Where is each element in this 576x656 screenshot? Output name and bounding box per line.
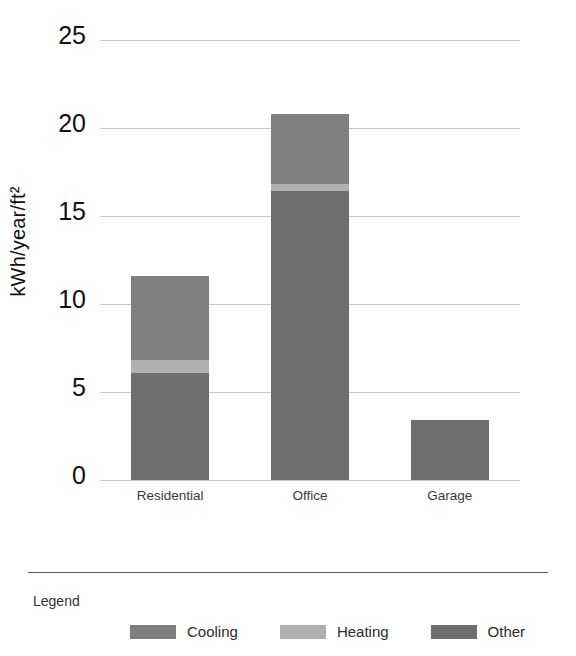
- y-axis-tick-label: 20: [0, 111, 86, 136]
- bar-segment-heating[interactable]: [271, 184, 349, 191]
- legend-item-cooling[interactable]: Cooling: [130, 623, 238, 640]
- legend-label: Heating: [337, 623, 389, 640]
- legend-divider: [28, 572, 548, 573]
- legend-swatch-other: [431, 625, 477, 639]
- chart-page: kWh/year/ft² 0510152025 ResidentialOffic…: [0, 0, 576, 656]
- legend-swatch-cooling: [130, 625, 176, 639]
- chart-canvas: kWh/year/ft² 0510152025 ResidentialOffic…: [0, 0, 576, 545]
- legend-label: Other: [488, 623, 526, 640]
- bar-stack: [271, 114, 349, 480]
- y-axis-tick-label: 15: [0, 199, 86, 224]
- legend-swatch-heating: [280, 625, 326, 639]
- y-axis-tick-label: 10: [0, 287, 86, 312]
- x-axis-tick-label: Garage: [370, 488, 530, 503]
- bar-residential[interactable]: [131, 276, 209, 480]
- gridline: [100, 480, 520, 481]
- plot-area: [100, 40, 520, 480]
- bar-segment-cooling[interactable]: [271, 114, 349, 184]
- x-axis-tick-label: Office: [230, 488, 390, 503]
- y-axis-tick-label: 5: [0, 375, 86, 400]
- bar-segment-cooling[interactable]: [131, 276, 209, 360]
- y-axis-tick-label: 0: [0, 463, 86, 488]
- legend-title: Legend: [33, 593, 80, 609]
- bar-segment-other[interactable]: [411, 420, 489, 480]
- bar-stack: [411, 420, 489, 480]
- bar-segment-heating[interactable]: [131, 360, 209, 372]
- legend-item-other[interactable]: Other: [431, 623, 526, 640]
- legend-item-heating[interactable]: Heating: [280, 623, 389, 640]
- bar-office[interactable]: [271, 114, 349, 480]
- bar-segment-other[interactable]: [131, 373, 209, 480]
- bar-segment-other[interactable]: [271, 191, 349, 480]
- gridline: [100, 40, 520, 41]
- bar-garage[interactable]: [411, 420, 489, 480]
- bar-stack: [131, 276, 209, 480]
- y-axis-tick-label: 25: [0, 23, 86, 48]
- legend-item-list: CoolingHeatingOther: [130, 623, 525, 640]
- legend: Legend CoolingHeatingOther: [0, 545, 576, 656]
- x-axis-tick-label: Residential: [90, 488, 250, 503]
- legend-label: Cooling: [187, 623, 238, 640]
